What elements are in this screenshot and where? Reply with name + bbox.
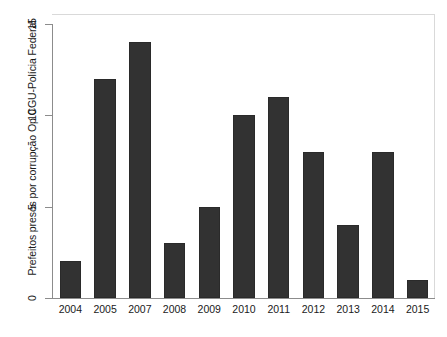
bar-2014 bbox=[372, 152, 394, 298]
y-tick-label-10: 10 bbox=[23, 105, 41, 125]
bar-2007 bbox=[129, 42, 151, 298]
bar-2005 bbox=[94, 79, 116, 298]
y-axis-title: Prefeitos presos por corrupção Op CGU-Po… bbox=[26, 8, 38, 288]
bar-2009 bbox=[199, 207, 221, 298]
x-tick-label-2015: 2015 bbox=[400, 303, 435, 315]
bar-2012 bbox=[303, 152, 325, 298]
plot-area bbox=[53, 14, 435, 298]
x-tick-label-2005: 2005 bbox=[88, 303, 123, 315]
y-tick-15 bbox=[45, 24, 52, 25]
x-tick-label-2009: 2009 bbox=[192, 303, 227, 315]
y-tick-label-0: 0 bbox=[23, 288, 41, 308]
x-tick-label-2008: 2008 bbox=[157, 303, 192, 315]
bar-2004 bbox=[60, 261, 82, 298]
x-tick-label-2010: 2010 bbox=[227, 303, 262, 315]
x-tick-label-2004: 2004 bbox=[53, 303, 88, 315]
y-tick-label-15: 15 bbox=[23, 14, 41, 34]
x-tick-label-2014: 2014 bbox=[366, 303, 401, 315]
x-tick-label-2007: 2007 bbox=[122, 303, 157, 315]
y-tick-10 bbox=[45, 115, 52, 116]
x-tick-label-2012: 2012 bbox=[296, 303, 331, 315]
y-tick-label-wrap-5: 5 bbox=[22, 198, 42, 216]
bar-2013 bbox=[337, 225, 359, 298]
bar-2011 bbox=[268, 97, 290, 298]
x-tick-label-2013: 2013 bbox=[331, 303, 366, 315]
bar-2008 bbox=[164, 243, 186, 298]
bar-2015 bbox=[407, 280, 429, 298]
x-axis-line bbox=[45, 298, 435, 299]
y-tick-5 bbox=[45, 207, 52, 208]
bar-chart: Prefeitos presos por corrupção Op CGU-Po… bbox=[0, 0, 447, 337]
x-tick-label-2011: 2011 bbox=[261, 303, 296, 315]
y-tick-label-5: 5 bbox=[23, 197, 41, 217]
y-tick-label-wrap-0: 0 bbox=[22, 289, 42, 307]
y-tick-label-wrap-15: 15 bbox=[22, 15, 42, 33]
y-tick-label-wrap-10: 10 bbox=[22, 106, 42, 124]
bar-2010 bbox=[233, 115, 255, 298]
y-tick-0 bbox=[45, 298, 52, 299]
